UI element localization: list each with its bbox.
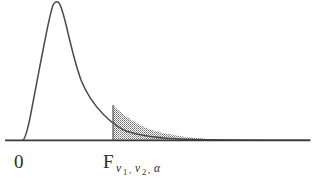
subscript-separator-2: , — [148, 165, 150, 175]
subscript-nu2: ν — [135, 162, 141, 174]
subscript-nu1: ν — [116, 162, 122, 174]
subscript-separator-1: , — [129, 165, 131, 175]
critical-region-shading — [113, 105, 248, 140]
subscript-nu1-index: 1 — [123, 167, 127, 177]
subscript-alpha: α — [154, 162, 161, 174]
subscript-nu2-index: 2 — [142, 167, 146, 177]
critical-value-label: F ν 1 , ν 2 , α — [103, 151, 161, 177]
critical-value-symbol: F — [103, 151, 114, 172]
origin-label: 0 — [14, 151, 24, 172]
distribution-chart: 0 F ν 1 , ν 2 , α — [0, 0, 328, 184]
f-distribution-figure: 0 F ν 1 , ν 2 , α — [0, 0, 328, 184]
density-curve — [23, 2, 310, 140]
